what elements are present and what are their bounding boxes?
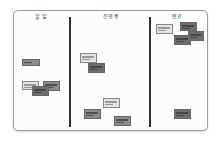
sticky-note-todo[interactable] — [32, 86, 49, 96]
note-text-line — [105, 104, 113, 105]
note-text-line — [176, 41, 184, 42]
note-text-line — [116, 122, 124, 123]
note-text-line — [24, 62, 32, 63]
sticky-note-done[interactable] — [156, 24, 173, 34]
note-text-line — [190, 37, 197, 38]
sticky-note-in-progress[interactable] — [114, 116, 131, 126]
sticky-note-in-progress[interactable] — [88, 63, 105, 73]
kanban-board: 할 일 진행 중 완료 — [13, 10, 208, 131]
sticky-note-in-progress[interactable] — [80, 53, 97, 63]
note-text-line — [182, 28, 190, 29]
column-header-in-progress: 진행 중 — [91, 13, 131, 19]
sticky-note-done[interactable] — [174, 109, 191, 119]
sticky-note-done[interactable] — [180, 22, 197, 31]
sticky-note-in-progress[interactable] — [84, 109, 101, 119]
column-header-done: 완료 — [157, 13, 197, 19]
note-text-line — [176, 115, 184, 116]
note-text-line — [90, 69, 98, 70]
note-text-line — [86, 115, 94, 116]
sticky-note-done[interactable] — [174, 35, 191, 45]
note-text-line — [82, 59, 90, 60]
note-text-line — [34, 92, 42, 93]
column-divider — [149, 17, 151, 127]
column-divider — [69, 17, 71, 127]
sticky-note-in-progress[interactable] — [103, 98, 120, 108]
column-header-todo: 할 일 — [21, 13, 61, 19]
sticky-note-todo[interactable] — [22, 59, 40, 66]
note-text-line — [24, 87, 32, 88]
note-text-line — [158, 30, 166, 31]
